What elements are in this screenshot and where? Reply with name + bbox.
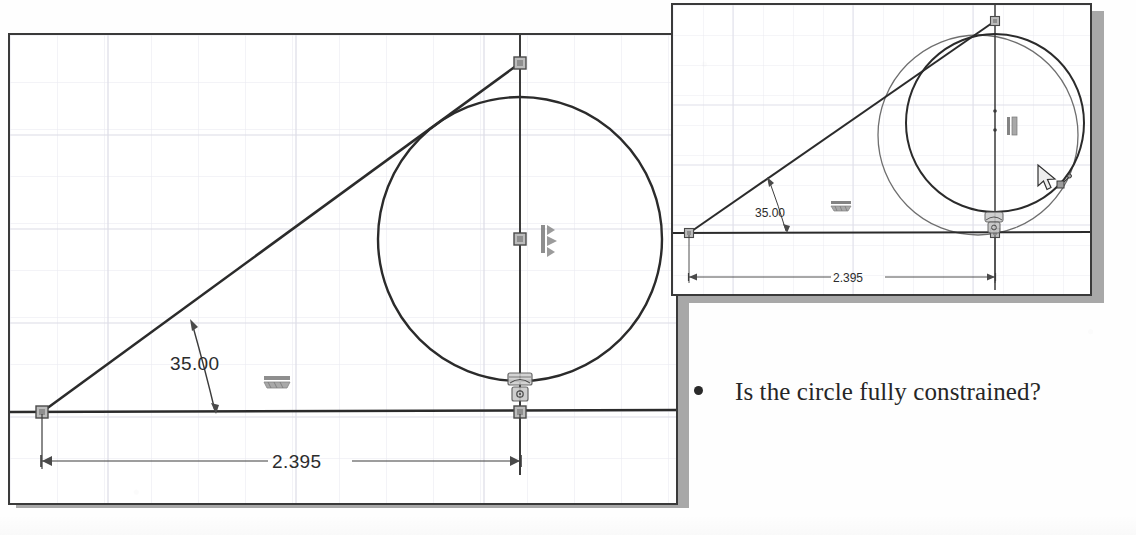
inset-ghost-circle-center-dot: [993, 128, 997, 132]
inset-tangent-relation-icon[interactable]: [985, 212, 1003, 222]
linear-dimension-label[interactable]: 2.395: [272, 451, 322, 472]
vertical-relation-icon[interactable]: [541, 225, 557, 257]
angle-dimension-label[interactable]: 35.00: [170, 353, 220, 374]
scan-bottom-smudge: [0, 515, 1136, 535]
inset-coincident-relation-icon[interactable]: [988, 222, 1000, 233]
point-marker-line-top-endpoint[interactable]: [514, 57, 526, 69]
inset-point-marker-line-top-endpoint[interactable]: [991, 17, 1000, 26]
main-sketch-canvas[interactable]: 35.00 2.395: [10, 35, 676, 503]
inset-vertical-relation-icon[interactable]: [1007, 117, 1017, 135]
tangent-relation-icon[interactable]: [508, 373, 532, 385]
inset-horizontal-relation-icon[interactable]: [831, 201, 851, 211]
scanned-page: 35.00 2.395: [0, 0, 1136, 535]
inset-panel-shadow-right: [1092, 11, 1104, 303]
horizontal-relation-icon[interactable]: [264, 376, 290, 388]
inset-linear-dimension-label[interactable]: 2.395: [833, 271, 863, 285]
point-marker-circle-center[interactable]: [514, 233, 526, 245]
inset-horizontal-line[interactable]: [673, 232, 1090, 233]
main-grid: [10, 35, 676, 503]
bullet-list-item: Is the circle fully constrained?: [694, 378, 1124, 406]
sketch-viewport-inset[interactable]: 35.00 2.395: [671, 3, 1092, 296]
inset-angle-dimension-label[interactable]: 35.00: [755, 206, 785, 220]
bullet-item-text: Is the circle fully constrained?: [735, 378, 1041, 406]
inset-circle-center-dot: [993, 109, 997, 113]
bullet-marker-icon: [694, 386, 703, 395]
inset-sketch-canvas[interactable]: 35.00 2.395: [673, 5, 1090, 294]
coincident-relation-icon[interactable]: [512, 387, 528, 401]
sketch-viewport-main[interactable]: 35.00 2.395: [8, 33, 678, 505]
